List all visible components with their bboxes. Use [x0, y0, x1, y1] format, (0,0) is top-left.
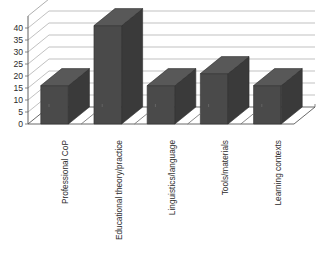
value-axis-tick-label: 10: [13, 95, 23, 105]
value-axis-tick-label: 30: [13, 47, 23, 57]
category-axis-label: Tools/materials: [220, 140, 230, 195]
category-axis-label: Educational theory/practice: [114, 140, 124, 240]
category-axis-label: Learning contexts: [273, 140, 283, 206]
value-axis-tick-label: 35: [13, 35, 23, 45]
bar-front-face: [200, 74, 228, 124]
value-axis-tick-label: 20: [13, 71, 23, 81]
value-axis: [25, 16, 28, 124]
bar-side-face: [122, 9, 143, 124]
category-axis-label: Professional CoP: [60, 140, 70, 205]
bars-group: [41, 9, 302, 124]
value-axis-tick-labels: 0510152025303540: [13, 23, 23, 129]
bar-front-face: [147, 86, 175, 124]
value-axis-tick-label: 15: [13, 83, 23, 93]
value-axis-tick-label: 25: [13, 59, 23, 69]
value-axis-tick-label: 40: [13, 23, 23, 33]
value-axis-tick-label: 5: [18, 107, 23, 117]
value-axis-tick-label: 0: [18, 119, 23, 129]
bar-2: [94, 9, 143, 124]
bar-front-face: [254, 86, 282, 124]
chart-canvas: 0510152025303540 Professional CoPEducati…: [0, 0, 325, 265]
category-axis-labels: Professional CoPEducational theory/pract…: [60, 140, 283, 241]
bar-front-face: [41, 86, 69, 124]
bar-front-face: [94, 26, 122, 124]
bar-chart-figure: 0510152025303540 Professional CoPEducati…: [0, 0, 325, 265]
category-axis-label: Linguistics/language: [167, 140, 177, 216]
